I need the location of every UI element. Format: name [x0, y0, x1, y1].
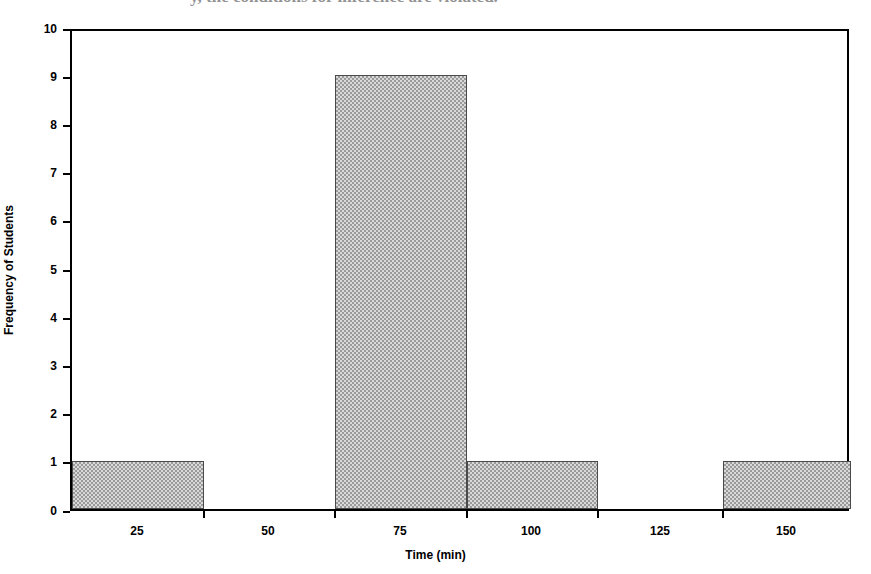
y-tick-label: 10: [17, 23, 57, 35]
x-tick-label: 125: [630, 525, 690, 537]
plot-area: [70, 29, 849, 511]
y-tick-label: 6: [17, 215, 57, 227]
y-tick-mark: [63, 29, 70, 31]
y-tick-mark: [63, 270, 70, 272]
y-tick-mark: [63, 414, 70, 416]
y-tick-label: 7: [17, 167, 57, 179]
x-tick-label: 75: [370, 525, 430, 537]
y-tick-mark: [63, 173, 70, 175]
y-tick-mark: [63, 221, 70, 223]
y-tick-mark: [63, 77, 70, 79]
y-tick-label: 4: [17, 312, 57, 324]
y-tick-label: 2: [17, 408, 57, 420]
x-tick-label: 50: [238, 525, 298, 537]
x-tick-label: 150: [756, 525, 816, 537]
y-axis-title: Frequency of Students: [2, 205, 16, 335]
y-tick-label: 3: [17, 360, 57, 372]
y-tick-label: 8: [17, 119, 57, 131]
x-tick-mark: [466, 511, 468, 518]
bars-container: [72, 31, 847, 509]
x-tick-mark: [203, 511, 205, 518]
x-tick-label: 25: [107, 525, 167, 537]
x-axis: 25 50 75 100 125 150: [0, 511, 871, 551]
y-tick-mark: [63, 462, 70, 464]
y-tick-mark: [63, 366, 70, 368]
histogram-figure: 10 9 8 7 6 5 4 3 2 1 0 Frequency of Stud…: [0, 0, 871, 574]
histogram-bar: [72, 461, 204, 509]
y-tick-label: 9: [17, 71, 57, 83]
histogram-bar: [335, 75, 467, 509]
x-tick-mark: [597, 511, 599, 518]
y-tick-mark: [63, 318, 70, 320]
y-tick-label: 5: [17, 264, 57, 276]
x-tick-label: 100: [501, 525, 561, 537]
y-tick-label: 1: [17, 456, 57, 468]
y-tick-mark: [63, 125, 70, 127]
histogram-bar: [723, 461, 851, 509]
x-tick-mark: [722, 511, 724, 518]
x-tick-mark: [334, 511, 336, 518]
x-axis-title: Time (min): [0, 548, 871, 562]
histogram-bar: [467, 461, 598, 509]
